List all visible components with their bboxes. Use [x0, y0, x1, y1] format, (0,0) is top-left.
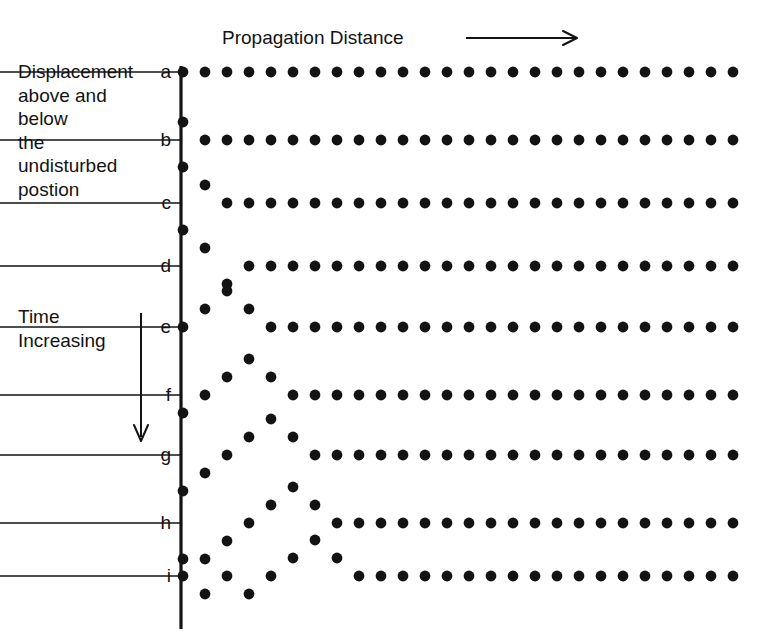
particle [640, 322, 651, 333]
particle [244, 135, 255, 146]
particle [398, 261, 409, 272]
particle [420, 390, 431, 401]
particle [486, 135, 497, 146]
particle [200, 554, 211, 565]
particle [310, 198, 321, 209]
particle [332, 198, 343, 209]
particle [552, 322, 563, 333]
particle [288, 390, 299, 401]
particle [574, 322, 585, 333]
particle [706, 322, 717, 333]
particle [178, 162, 189, 173]
particle [398, 518, 409, 529]
particle [376, 261, 387, 272]
particle [266, 322, 277, 333]
particle [662, 322, 673, 333]
particle [684, 390, 695, 401]
particle [222, 198, 233, 209]
particle [706, 450, 717, 461]
particle [200, 243, 211, 254]
particle [200, 589, 211, 600]
row-label-e: e [153, 317, 171, 336]
particle [398, 135, 409, 146]
particle [640, 261, 651, 272]
particle [442, 518, 453, 529]
particle [552, 135, 563, 146]
particle [178, 408, 189, 419]
particle [288, 482, 299, 493]
particle [486, 67, 497, 78]
particle [530, 571, 541, 582]
particle [200, 468, 211, 479]
particle [728, 67, 739, 78]
particle [574, 450, 585, 461]
particle [662, 390, 673, 401]
particle [574, 67, 585, 78]
particle [508, 135, 519, 146]
particle [266, 261, 277, 272]
particle [354, 450, 365, 461]
particle [442, 261, 453, 272]
particle [552, 67, 563, 78]
particle [332, 261, 343, 272]
particle [662, 518, 673, 529]
particle [640, 571, 651, 582]
particle [354, 390, 365, 401]
particle [398, 390, 409, 401]
particle [222, 135, 233, 146]
particle [376, 571, 387, 582]
particle [200, 390, 211, 401]
particle [552, 198, 563, 209]
wave-row-d [0, 225, 738, 290]
particle [244, 198, 255, 209]
particle [618, 67, 629, 78]
particle [222, 536, 233, 547]
particle [728, 322, 739, 333]
particle [684, 198, 695, 209]
particle [310, 67, 321, 78]
particle [662, 450, 673, 461]
row-label-h: h [153, 513, 171, 532]
particle [420, 135, 431, 146]
particle [244, 589, 255, 600]
particle [508, 198, 519, 209]
particle [266, 571, 277, 582]
particle [508, 518, 519, 529]
particle [420, 261, 431, 272]
figure-decorations [134, 31, 577, 441]
particle [640, 135, 651, 146]
particle [200, 135, 211, 146]
row-label-a: a [153, 62, 171, 81]
particle [178, 486, 189, 497]
particle [266, 414, 277, 425]
particle [200, 67, 211, 78]
particle [530, 67, 541, 78]
wave-row-c [0, 162, 738, 209]
particle [684, 571, 695, 582]
wave-snapshot-plot [0, 0, 779, 639]
particle [398, 198, 409, 209]
particle [420, 322, 431, 333]
wave-propagation-figure: Propagation Distance Displacement above … [0, 0, 779, 639]
particle [442, 67, 453, 78]
particle [640, 67, 651, 78]
particle [288, 135, 299, 146]
particle [728, 198, 739, 209]
particle [464, 261, 475, 272]
wave-rows [0, 67, 738, 600]
particle [596, 518, 607, 529]
particle [662, 135, 673, 146]
particle [486, 198, 497, 209]
particle [706, 261, 717, 272]
particle [376, 450, 387, 461]
particle [596, 261, 607, 272]
particle [508, 322, 519, 333]
particle [398, 322, 409, 333]
particle [244, 67, 255, 78]
particle [288, 67, 299, 78]
particle [200, 304, 211, 315]
particle [376, 198, 387, 209]
particle [728, 571, 739, 582]
particle [706, 135, 717, 146]
particle [354, 135, 365, 146]
